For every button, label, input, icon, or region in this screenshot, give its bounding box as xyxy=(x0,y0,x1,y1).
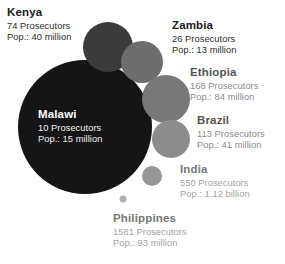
label-brazil-prosecutors: 113 Prosecutors xyxy=(197,129,265,140)
bubble-chart: Kenya 74 Prosecutors Pop.: 40 million Za… xyxy=(0,0,285,264)
bubble-brazil xyxy=(152,120,190,158)
label-philippines-population: Pop.: 93 million xyxy=(113,238,187,249)
label-kenya-prosecutors: 74 Prosecutors xyxy=(7,21,71,32)
label-ethiopia-country: Ethiopia xyxy=(190,66,258,80)
label-zambia-population: Pop.: 13 million xyxy=(172,45,236,56)
label-brazil-country: Brazil xyxy=(197,114,265,128)
label-kenya: Kenya 74 Prosecutors Pop.: 40 million xyxy=(7,6,71,43)
label-zambia-prosecutors: 26 Prosecutors xyxy=(172,34,236,45)
label-india-country: India xyxy=(180,163,250,177)
label-india-prosecutors: 550 Prosecutors xyxy=(180,178,250,189)
label-malawi: Malawi 10 Prosecutors Pop.: 15 million xyxy=(38,108,102,145)
label-malawi-prosecutors: 10 Prosecutors xyxy=(38,123,102,134)
label-malawi-population: Pop.: 15 million xyxy=(38,134,102,145)
bubble-philippines xyxy=(120,196,127,203)
label-kenya-population: Pop.: 40 million xyxy=(7,32,71,43)
label-india: India 550 Prosecutors Pop.: 1.12 billion xyxy=(180,163,250,200)
label-philippines-prosecutors: 1581 Prosecutors xyxy=(113,227,187,238)
label-philippines-country: Philippines xyxy=(113,212,187,226)
label-zambia: Zambia 26 Prosecutors Pop.: 13 million xyxy=(172,19,236,56)
label-ethiopia-population: Pop.: 84 million xyxy=(190,92,258,103)
label-ethiopia-prosecutors: 168 Prosecutors xyxy=(190,81,258,92)
bubble-zambia xyxy=(121,41,163,83)
label-malawi-country: Malawi xyxy=(38,108,102,122)
label-zambia-country: Zambia xyxy=(172,19,236,33)
bubble-india xyxy=(142,166,162,186)
label-brazil: Brazil 113 Prosecutors Pop.: 41 million xyxy=(197,114,265,151)
label-kenya-country: Kenya xyxy=(7,6,71,20)
label-brazil-population: Pop.: 41 million xyxy=(197,140,265,151)
label-ethiopia: Ethiopia 168 Prosecutors Pop.: 84 millio… xyxy=(190,66,258,103)
label-philippines: Philippines 1581 Prosecutors Pop.: 93 mi… xyxy=(113,212,187,249)
bubble-ethiopia xyxy=(142,75,190,123)
label-india-population: Pop.: 1.12 billion xyxy=(180,189,250,200)
